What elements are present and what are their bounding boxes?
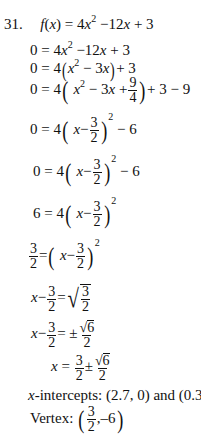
step-5: 0 = 4( x−32)2 − 6 bbox=[33, 158, 140, 187]
function-definition: f(x) = 4x2 −12x + 3 bbox=[40, 16, 153, 32]
step-3: 0 = 4( x2 − 3x +94)+ 3 − 9 bbox=[30, 76, 190, 105]
step-10: x = 32±√62 bbox=[51, 353, 112, 383]
problem-header: 31. f(x) = 4x2 −12x + 3 bbox=[4, 14, 154, 32]
problem-number: 31. bbox=[4, 16, 23, 32]
step-6: 6 = 4( x−32)2 bbox=[33, 200, 116, 229]
step-8: x−32=√32 bbox=[31, 284, 91, 314]
step-7: 32=( x−32)2 bbox=[28, 242, 100, 271]
step-1: 0 = 4x2 −12x + 3 bbox=[30, 40, 130, 58]
step-9: x−32= ±√62 bbox=[31, 320, 96, 350]
vertex: Vertex: (32,–6) bbox=[30, 405, 124, 434]
step-4: 0 = 4( x−32)2 − 6 bbox=[30, 116, 137, 145]
x-intercepts: x-intercepts: (2.7, 0) and (0.3, 0) bbox=[28, 388, 201, 403]
square-root: √32 bbox=[66, 284, 91, 314]
